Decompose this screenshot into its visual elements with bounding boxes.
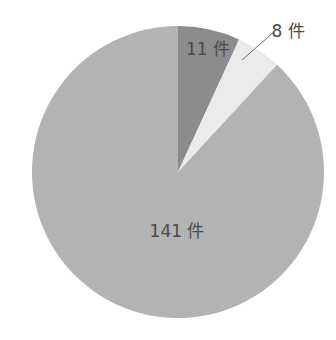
- pie-chart: 11 件8 件141 件: [0, 0, 336, 340]
- pie-slice-141: [32, 26, 324, 318]
- slice-label: 141 件: [150, 221, 205, 241]
- pie-slices: [32, 26, 324, 318]
- slice-label: 8 件: [271, 21, 304, 41]
- slice-label: 11 件: [186, 39, 230, 59]
